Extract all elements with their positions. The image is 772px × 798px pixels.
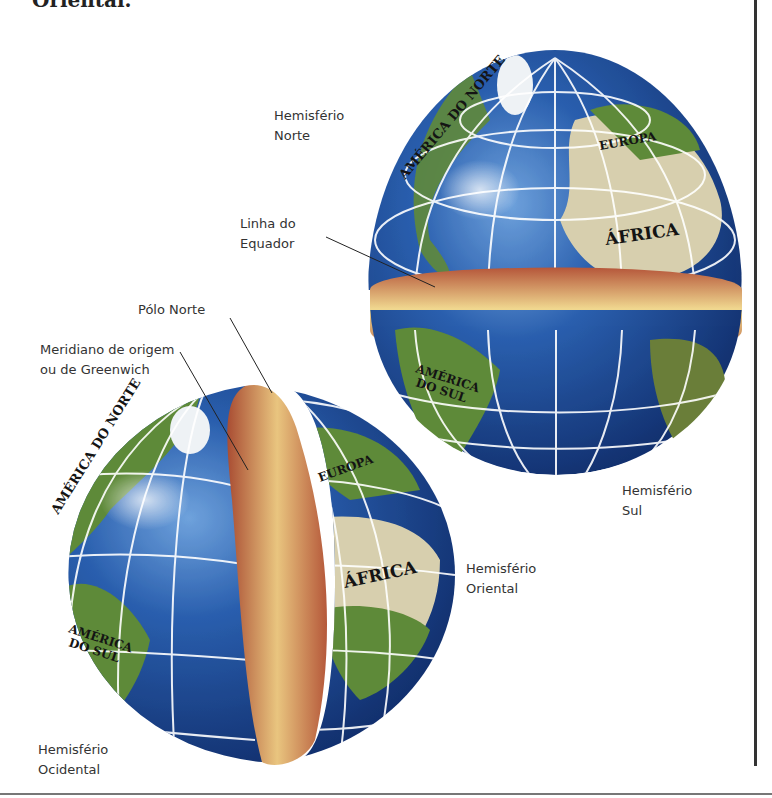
label-northern-hemisphere: Hemisfério Norte xyxy=(274,106,344,146)
label-prime-meridian: Meridiano de origem ou de Greenwich xyxy=(40,340,175,380)
label-north-pole: Pólo Norte xyxy=(138,300,205,320)
label-western-hemisphere: Hemisfério Ocidental xyxy=(38,740,108,780)
hemispheres-diagram: AMÉRICA DO NORTE EUROPA ÁFRICA AMÉRICA D… xyxy=(0,0,772,798)
leader-line-north-pole xyxy=(230,318,272,393)
label-equator: Linha do Equador xyxy=(240,214,296,254)
label-southern-hemisphere: Hemisfério Sul xyxy=(622,481,692,521)
label-eastern-hemisphere: Hemisfério Oriental xyxy=(466,559,536,599)
